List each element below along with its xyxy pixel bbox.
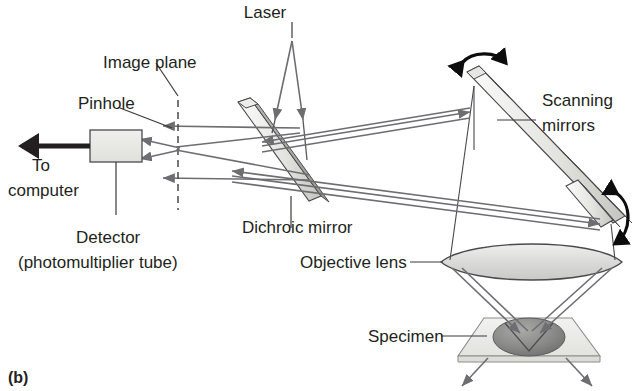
pinhole-detector-box [90, 130, 142, 162]
label-to-computer-line1: To [32, 156, 50, 175]
label-to-computer-line2: computer [8, 181, 79, 200]
label-detector-line1: Detector [76, 228, 141, 247]
diagram-canvas: Laser Image plane Pinhole To computer De… [0, 0, 639, 391]
panel-identifier: (b) [8, 369, 28, 386]
label-specimen: Specimen [368, 327, 444, 346]
label-pinhole: Pinhole [78, 94, 135, 113]
label-laser: Laser [244, 3, 287, 22]
label-image-plane: Image plane [103, 53, 197, 72]
label-detector-line2: (photomultiplier tube) [18, 253, 178, 272]
slide-edge [458, 356, 600, 362]
label-dichroic-mirror: Dichroic mirror [242, 218, 353, 237]
label-objective-lens: Objective lens [300, 253, 407, 272]
label-scanning-mirrors-line2: mirrors [542, 116, 595, 135]
detector-body [90, 130, 142, 162]
confocal-microscope-figure: Laser Image plane Pinhole To computer De… [0, 0, 639, 391]
label-scanning-mirrors-line1: Scanning [542, 91, 613, 110]
